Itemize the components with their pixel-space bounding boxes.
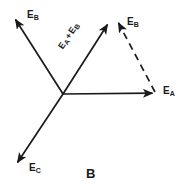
vector-label-ea-base: E (163, 85, 170, 96)
vector-label-ec-subscript: C (36, 167, 41, 174)
vector-canvas (0, 0, 189, 188)
vector-label-eb-right-subscript: B (134, 21, 139, 28)
panel-label: B (86, 167, 95, 180)
vector-label-ea-subscript: A (170, 90, 175, 97)
vector-label-eb-left-subscript: B (34, 14, 39, 21)
vector-eb-translated-dashed-line (119, 23, 156, 92)
vector-label-eb-right-base: E (127, 16, 134, 27)
vector-label-ec: EC (29, 163, 41, 174)
vector-label-eb-left: EB (27, 10, 39, 21)
vector-label-eb-left-base: E (27, 9, 34, 20)
vector-label-ec-base: E (29, 162, 36, 173)
vector-ec-line (18, 94, 64, 163)
vector-label-ea: EA (163, 86, 175, 97)
vector-eb-line (16, 20, 64, 95)
vector-label-eb-right: EB (127, 17, 139, 28)
vector-ea-line (63, 93, 153, 94)
phasor-diagram-figure: EB EB EA EC EA+EB B (0, 0, 189, 188)
